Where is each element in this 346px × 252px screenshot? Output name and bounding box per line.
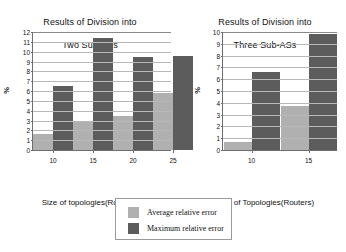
y-axis-tick-label: 7 [26,78,30,85]
chart-title-line-1: Results of Division into [43,17,136,27]
legend-swatch-icon [128,223,139,234]
y-axis-tick-mark [31,121,33,122]
bar [281,106,309,150]
x-axis-tick-label: 10 [248,157,255,164]
bar [93,38,113,150]
figure-container: Results of Division into Two Sub-ASs % 1… [0,0,346,252]
gridline [223,32,337,33]
gridline [33,91,171,92]
gridline [223,103,337,104]
y-axis-tick-label: 8 [26,68,30,75]
gridline [33,62,171,63]
plot-area: 1015 012345678910 [222,32,337,151]
gridline [33,32,171,33]
gridline [223,44,337,45]
y-axis-tick-mark [221,32,223,33]
x-axis-tick-mark [133,150,134,153]
gridline [33,130,171,131]
y-axis-tick-mark [221,103,223,104]
gridline [223,79,337,80]
y-axis-tick-label: 6 [216,76,220,83]
y-axis-tick-label: 10 [213,29,220,36]
chart-panel-two-sub-as: Results of Division into Two Sub-ASs % 1… [2,0,178,192]
y-axis-tick-mark [221,115,223,116]
y-axis-tick-mark [221,67,223,68]
y-axis-tick-label: 5 [26,97,30,104]
y-axis-tick-mark [31,81,33,82]
chart-panel-three-sub-as: Results of Division into Three Sub-ASs %… [184,0,346,192]
x-axis-tick-mark [173,150,174,153]
y-axis-tick-label: 10 [23,48,30,55]
plot-area: 10152025 0123456789101112 [32,32,171,151]
y-axis-tick-mark [31,62,33,63]
y-axis-tick-mark [31,140,33,141]
x-axis-tick-label: 15 [305,157,312,164]
x-axis-tick-label: 10 [49,157,56,164]
legend-swatch-icon [128,207,139,218]
legend-item-label: Average relative error [147,208,217,217]
y-axis-tick-label: 12 [23,29,30,36]
y-axis-tick-mark [31,101,33,102]
y-axis-label: % [193,87,202,94]
x-axis-tick-mark [309,150,310,153]
gridline [33,101,171,102]
y-axis-tick-label: 9 [26,58,30,65]
y-axis-tick-label: 2 [26,127,30,134]
gridline [33,140,171,141]
y-axis-tick-mark [221,56,223,57]
x-axis-tick-label: 20 [129,157,136,164]
bar [224,142,252,150]
y-axis-tick-label: 1 [26,137,30,144]
y-axis-tick-label: 7 [216,64,220,71]
y-axis-tick-mark [221,44,223,45]
y-axis-tick-mark [221,79,223,80]
y-axis-tick-mark [31,32,33,33]
y-axis-tick-mark [31,42,33,43]
y-axis-tick-mark [221,150,223,151]
gridline [223,91,337,92]
bar [33,134,53,150]
y-axis-tick-label: 5 [216,88,220,95]
gridline [223,126,337,127]
y-axis-tick-label: 0 [26,147,30,154]
y-axis-tick-label: 4 [216,99,220,106]
x-axis-tick-label: 15 [89,157,96,164]
x-axis-tick-mark [252,150,253,153]
gridline [33,42,171,43]
bar [309,34,337,150]
y-axis-tick-mark [221,138,223,139]
y-axis-tick-mark [221,126,223,127]
x-axis-tick-mark [93,150,94,153]
y-axis-tick-label: 9 [216,40,220,47]
y-axis-tick-label: 3 [26,117,30,124]
legend-item-maximum: Maximum relative error [128,220,231,236]
y-axis-label: % [2,87,11,94]
y-axis-tick-label: 4 [26,107,30,114]
legend: Average relative error Maximum relative … [115,198,232,240]
gridline [223,56,337,57]
y-axis-tick-mark [31,52,33,53]
bar [73,121,93,150]
x-axis-tick-mark [53,150,54,153]
gridline [223,115,337,116]
y-axis-tick-label: 11 [23,38,30,45]
y-axis-tick-label: 3 [216,111,220,118]
y-axis-tick-mark [31,150,33,151]
chart-title-line-1: Results of Division into [218,17,311,27]
legend-item-label: Maximum relative error [147,224,224,233]
legend-item-average: Average relative error [128,204,231,220]
y-axis-tick-mark [31,71,33,72]
gridline [33,71,171,72]
gridline [223,67,337,68]
y-axis-tick-label: 1 [216,135,220,142]
y-axis-tick-label: 2 [216,123,220,130]
y-axis-tick-mark [221,91,223,92]
y-axis-tick-label: 0 [216,147,220,154]
gridline [223,138,337,139]
gridline [33,52,171,53]
y-axis-tick-label: 8 [216,52,220,59]
gridline [33,121,171,122]
x-axis-tick-label: 25 [169,157,176,164]
y-axis-tick-label: 6 [26,88,30,95]
y-axis-tick-mark [31,111,33,112]
